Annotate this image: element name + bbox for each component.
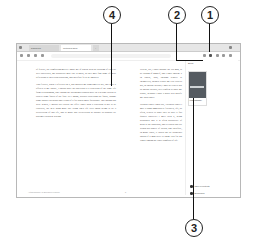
callout-1: 1 xyxy=(201,6,219,24)
back-icon[interactable] xyxy=(20,54,23,57)
bookmarks-label: Bookmarks xyxy=(195,192,205,194)
refresh-icon[interactable] xyxy=(34,54,37,57)
tab-gutenberg-book[interactable]: Gutenberg Book xyxy=(61,45,91,51)
panel-title: Book xyxy=(188,62,193,65)
status-left: Autobiography of Benjamin Franklin xyxy=(28,191,60,193)
callout-2: 2 xyxy=(168,6,186,24)
forward-icon[interactable] xyxy=(27,54,30,57)
right-paragraph-1: Hereby, too, I shall indulge the old man… xyxy=(140,68,182,100)
callout-4: 4 xyxy=(103,6,121,24)
tab-bar: Dashboard Gutenberg Book + xyxy=(17,44,240,52)
callout-4-leader xyxy=(111,24,112,86)
left-paragraph-2: That felicity, when I reflected on it, h… xyxy=(36,83,116,119)
settings-icon[interactable] xyxy=(229,54,232,57)
callout-2-leader-v xyxy=(176,24,177,61)
window-controls-icon[interactable] xyxy=(229,46,232,49)
new-tab-button[interactable]: + xyxy=(93,45,99,51)
collections-icon[interactable] xyxy=(222,54,225,57)
home-icon[interactable] xyxy=(41,54,44,57)
left-paragraph-1: of felicity, the comforting moves I made… xyxy=(36,68,116,80)
reading-view-icon[interactable] xyxy=(209,54,212,57)
read-aloud-icon[interactable] xyxy=(203,54,206,57)
right-page: Hereby, too, I shall indulge the old man… xyxy=(140,68,182,146)
right-paragraph-2: Without vanity I may say, "Without vanit… xyxy=(140,103,182,143)
window-menu-icon[interactable] xyxy=(19,46,22,49)
tab-dashboard[interactable]: Dashboard xyxy=(29,45,59,51)
toc-label: Table of contents xyxy=(195,185,210,187)
favorites-icon[interactable] xyxy=(216,54,219,57)
callout-3-leader xyxy=(193,98,194,219)
book-caption: Autobiography xyxy=(189,99,202,101)
callout-3: 3 xyxy=(185,219,203,237)
callout-1-leader xyxy=(209,24,210,52)
left-page: of felicity, the comforting moves I made… xyxy=(36,68,116,122)
callout-2-leader-h xyxy=(176,60,203,61)
page-number: 5 xyxy=(125,191,126,193)
cover-title-strip xyxy=(190,86,204,88)
book-cover[interactable] xyxy=(189,72,206,98)
